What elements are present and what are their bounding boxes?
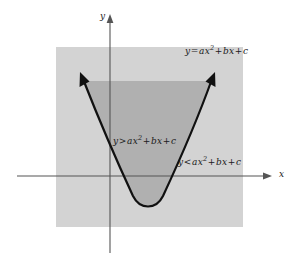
equation-label: y=ax2+bx+c <box>185 47 248 56</box>
less-than-region-label: y<ax2+bx+c <box>178 158 241 167</box>
y-axis-arrowhead <box>107 14 114 23</box>
lt-plus-2: + <box>227 157 236 167</box>
x-axis-arrowhead <box>263 173 272 180</box>
gt-coef-c: c <box>171 136 176 146</box>
equation-plus-1: + <box>214 46 223 56</box>
y-axis-label: y <box>100 12 105 21</box>
lt-coef-c: c <box>236 157 241 167</box>
equation-coef-c: c <box>243 46 248 56</box>
equation-operator: = <box>190 46 199 56</box>
parabola-inequality-figure: y=ax2+bx+c y>ax2+bx+c y<ax2+bx+c y x <box>0 0 300 264</box>
lt-operator: < <box>183 157 192 167</box>
x-axis-label: x <box>279 170 284 179</box>
gt-operator: > <box>118 136 127 146</box>
gt-plus-2: + <box>162 136 171 146</box>
equation-plus-2: + <box>234 46 243 56</box>
greater-than-region-label: y>ax2+bx+c <box>113 137 176 146</box>
lt-plus-1: + <box>207 157 216 167</box>
figure-canvas <box>0 0 300 264</box>
gt-plus-1: + <box>142 136 151 146</box>
